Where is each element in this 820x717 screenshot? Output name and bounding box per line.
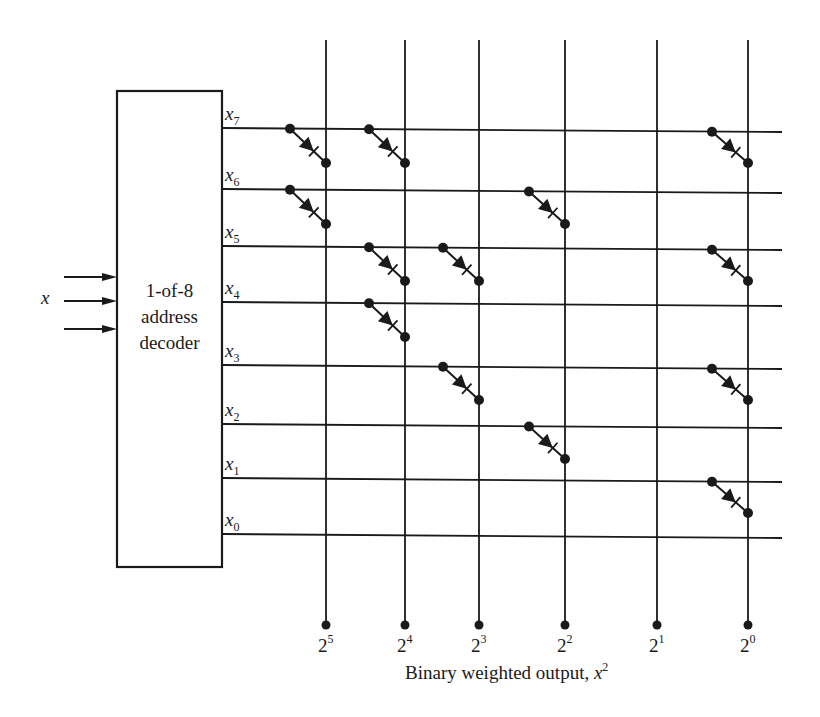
diode-x1-2^0 [707, 477, 753, 518]
output-label-2^1: 21 [649, 632, 665, 656]
row-label-x4: x4 [224, 277, 239, 302]
diode-x7-2^0 [707, 127, 753, 168]
diode-x4-2^4 [364, 298, 410, 342]
diode-x5-2^4 [364, 242, 410, 286]
junction-dot [560, 219, 570, 229]
junction-dot [321, 219, 331, 229]
diode-x5-2^3 [438, 243, 484, 286]
output-terminal-dot [653, 621, 662, 630]
output-label-2^2: 22 [557, 632, 573, 656]
word-line-x0 [222, 534, 782, 538]
diode-x3-2^0 [707, 364, 753, 405]
diode-x6-2^5 [285, 185, 331, 229]
word-line-x7 [222, 128, 782, 132]
arrowhead-icon [102, 325, 117, 333]
decoder-box [117, 91, 222, 567]
output-label-2^5: 25 [318, 632, 334, 656]
output-terminals: 252423222120 [318, 621, 756, 657]
word-line-x6 [222, 189, 782, 193]
row-label-x2: x2 [224, 399, 239, 424]
decoder-inputs: x [40, 273, 117, 333]
output-label-2^0: 20 [740, 632, 756, 656]
diode-x7-2^5 [285, 124, 331, 168]
row-label-x1: x1 [224, 453, 239, 478]
output-caption: Binary weighted output, x2 [405, 660, 608, 683]
output-terminal-dot [475, 621, 484, 630]
row-label-x5: x5 [224, 221, 239, 246]
junction-dot [707, 364, 717, 374]
output-caption-exp: 2 [602, 660, 608, 674]
word-line-x1 [222, 478, 782, 482]
word-line-x2 [222, 424, 782, 428]
junction-dot [560, 454, 570, 464]
output-terminal-dot [322, 621, 331, 630]
junction-dot [285, 124, 295, 134]
word-line-x5 [222, 246, 782, 250]
junction-dot [364, 124, 374, 134]
output-terminal-dot [744, 621, 753, 630]
junction-dot [743, 158, 753, 168]
address-decoder: 1-of-8 address decoder [117, 91, 222, 567]
row-label-x6: x6 [224, 164, 239, 189]
output-label-2^4: 24 [397, 632, 413, 656]
input-label-x: x [40, 287, 50, 308]
junction-dot [438, 362, 448, 372]
output-label-2^3: 23 [471, 632, 487, 656]
row-label-x7: x7 [224, 103, 239, 128]
junction-dot [707, 477, 717, 487]
output-terminal-dot [561, 621, 570, 630]
junction-dot [743, 508, 753, 518]
junction-dot [474, 276, 484, 286]
decoder-label-line-3: decoder [139, 332, 200, 353]
arrowhead-icon [102, 297, 117, 305]
diode-x5-2^0 [707, 245, 753, 286]
junction-dot [364, 242, 374, 252]
junction-dot [707, 127, 717, 137]
diode-x7-2^4 [364, 124, 410, 168]
row-label-x3: x3 [224, 340, 239, 365]
diode-x6-2^2 [524, 186, 570, 229]
junction-dot [743, 276, 753, 286]
word-line-x4 [222, 302, 782, 306]
diodes [285, 124, 753, 518]
junction-dot [707, 245, 717, 255]
diode-rom-squaring-diagram: 1-of-8 address decoder x x7x6x5x4x3x2x1x… [0, 0, 820, 717]
diode-x3-2^3 [438, 362, 484, 405]
junction-dot [321, 158, 331, 168]
decoder-label-line-1: 1-of-8 [146, 280, 193, 301]
diode-x2-2^2 [524, 421, 570, 464]
decoder-label-line-2: address [141, 306, 198, 327]
junction-dot [524, 421, 534, 431]
output-terminal-dot [401, 621, 410, 630]
junction-dot [438, 243, 448, 253]
row-labels: x7x6x5x4x3x2x1x0 [224, 103, 239, 534]
rom-grid [222, 40, 782, 625]
junction-dot [474, 395, 484, 405]
junction-dot [400, 276, 410, 286]
junction-dot [400, 158, 410, 168]
junction-dot [364, 298, 374, 308]
junction-dot [400, 332, 410, 342]
junction-dot [524, 186, 534, 196]
word-line-x3 [222, 365, 782, 369]
output-caption-text: Binary weighted output, [405, 662, 594, 683]
junction-dot [743, 395, 753, 405]
junction-dot [285, 185, 295, 195]
arrowhead-icon [102, 273, 117, 281]
row-label-x0: x0 [224, 509, 239, 534]
